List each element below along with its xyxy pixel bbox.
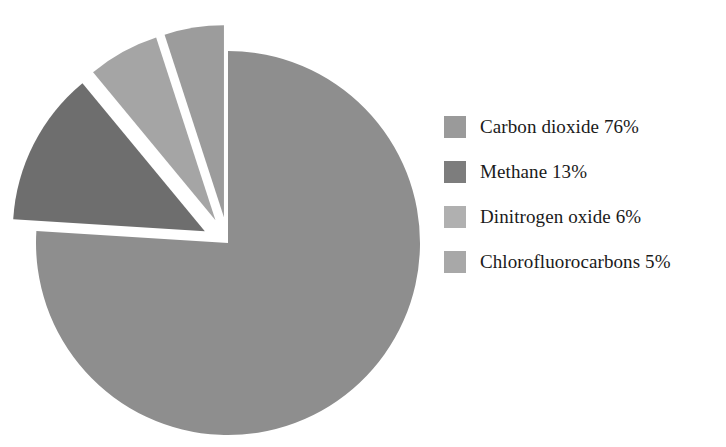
legend-swatch-icon-methane xyxy=(444,161,466,183)
legend-label-methane: Methane 13% xyxy=(480,162,587,181)
legend-item-chlorofluorocarbons: Chlorofluorocarbons 5% xyxy=(444,239,724,284)
legend-swatch-icon-carbon-dioxide xyxy=(444,116,466,138)
legend-label-chlorofluorocarbons: Chlorofluorocarbons 5% xyxy=(480,252,671,271)
legend-item-dinitrogen-oxide: Dinitrogen oxide 6% xyxy=(444,194,724,239)
pie-svg xyxy=(0,0,440,447)
pie-slice-group xyxy=(13,25,420,435)
pie-plot-area xyxy=(0,0,440,447)
legend-label-carbon-dioxide: Carbon dioxide 76% xyxy=(480,117,639,136)
legend-item-methane: Methane 13% xyxy=(444,149,724,194)
legend-swatch-icon-dinitrogen-oxide xyxy=(444,206,466,228)
legend-item-carbon-dioxide: Carbon dioxide 76% xyxy=(444,104,724,149)
legend-label-dinitrogen-oxide: Dinitrogen oxide 6% xyxy=(480,207,641,226)
legend-swatch-icon-chlorofluorocarbons xyxy=(444,251,466,273)
chart-legend: Carbon dioxide 76% Methane 13% Dinitroge… xyxy=(444,104,724,284)
pie-chart-figure: Carbon dioxide 76% Methane 13% Dinitroge… xyxy=(0,0,726,447)
